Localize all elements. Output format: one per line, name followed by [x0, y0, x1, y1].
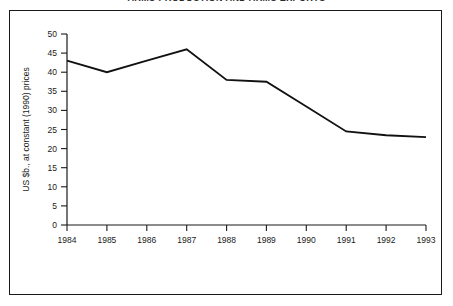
x-tick-label: 1990: [297, 235, 316, 245]
plot-area: 50 45 40 35 30 25 20 15 10 5 0: [9, 10, 442, 295]
x-tick-label: 1985: [97, 235, 116, 245]
figure-container: ARMS PRODUCTION AND ARMS EXPORTS: [0, 0, 453, 306]
y-tick-label: 45: [48, 48, 58, 58]
y-axis-ticks: [61, 34, 67, 225]
line-chart-svg: 50 45 40 35 30 25 20 15 10 5 0: [9, 10, 442, 295]
x-tick-label: 1989: [257, 235, 276, 245]
data-series-line: [67, 49, 426, 137]
y-tick-label: 30: [48, 105, 58, 115]
x-tick-label: 1992: [377, 235, 396, 245]
chart-title-strip: ARMS PRODUCTION AND ARMS EXPORTS: [0, 0, 453, 8]
y-tick-label: 0: [52, 220, 57, 230]
chart-title: ARMS PRODUCTION AND ARMS EXPORTS: [0, 0, 453, 3]
x-tick-label: 1988: [217, 235, 236, 245]
y-tick-label: 25: [48, 125, 58, 135]
x-tick-label: 1986: [137, 235, 156, 245]
y-tick-label: 15: [48, 163, 58, 173]
y-tick-label: 40: [48, 67, 58, 77]
y-tick-label: 10: [48, 182, 58, 192]
x-tick-label: 1987: [177, 235, 196, 245]
y-axis-tick-labels: 50 45 40 35 30 25 20 15 10 5 0: [48, 29, 58, 230]
y-tick-label: 5: [52, 201, 57, 211]
x-tick-label: 1984: [58, 235, 77, 245]
y-tick-label: 35: [48, 86, 58, 96]
x-axis-tick-labels: 1984 1985 1986 1987 1988 1989 1990 1991 …: [58, 235, 436, 245]
y-axis-title: US $b., at constant (1990) prices: [21, 67, 31, 191]
x-tick-label: 1993: [417, 235, 436, 245]
y-tick-label: 20: [48, 144, 58, 154]
y-tick-label: 50: [48, 29, 58, 39]
x-tick-label: 1991: [337, 235, 356, 245]
x-axis-ticks: [67, 225, 426, 231]
